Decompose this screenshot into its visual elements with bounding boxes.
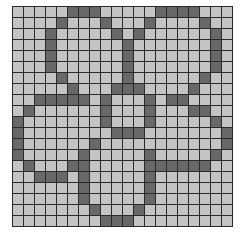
grid-cell-filled[interactable] [89,138,100,149]
grid-cell-empty[interactable] [23,127,34,138]
grid-cell-empty[interactable] [78,72,89,83]
grid-cell-empty[interactable] [78,17,89,28]
grid-cell-empty[interactable] [122,94,133,105]
grid-cell-empty[interactable] [45,72,56,83]
grid-cell-empty[interactable] [210,72,221,83]
grid-cell-filled[interactable] [199,160,210,171]
grid-cell-empty[interactable] [89,28,100,39]
grid-cell-empty[interactable] [67,182,78,193]
grid-cell-empty[interactable] [199,94,210,105]
grid-cell-empty[interactable] [56,105,67,116]
grid-cell-empty[interactable] [67,17,78,28]
grid-cell-empty[interactable] [122,116,133,127]
grid-cell-filled[interactable] [144,17,155,28]
grid-cell-empty[interactable] [12,72,23,83]
grid-cell-empty[interactable] [144,39,155,50]
grid-cell-empty[interactable] [144,215,155,226]
grid-cell-filled[interactable] [56,94,67,105]
grid-cell-filled[interactable] [144,149,155,160]
grid-cell-empty[interactable] [89,50,100,61]
grid-cell-empty[interactable] [133,6,144,17]
grid-cell-empty[interactable] [177,28,188,39]
grid-cell-empty[interactable] [188,28,199,39]
grid-cell-empty[interactable] [89,215,100,226]
grid-cell-empty[interactable] [166,50,177,61]
grid-cell-empty[interactable] [100,61,111,72]
grid-cell-empty[interactable] [122,182,133,193]
grid-cell-empty[interactable] [155,116,166,127]
grid-cell-empty[interactable] [45,182,56,193]
grid-cell-empty[interactable] [34,193,45,204]
grid-cell-empty[interactable] [199,204,210,215]
grid-cell-empty[interactable] [111,149,122,160]
grid-cell-filled[interactable] [100,94,111,105]
grid-cell-empty[interactable] [144,72,155,83]
grid-cell-empty[interactable] [23,39,34,50]
grid-cell-empty[interactable] [89,116,100,127]
grid-cell-empty[interactable] [67,50,78,61]
grid-cell-empty[interactable] [210,193,221,204]
grid-cell-empty[interactable] [122,193,133,204]
grid-cell-empty[interactable] [155,149,166,160]
grid-cell-empty[interactable] [199,61,210,72]
grid-cell-filled[interactable] [122,127,133,138]
grid-cell-filled[interactable] [34,94,45,105]
grid-cell-empty[interactable] [89,171,100,182]
grid-cell-empty[interactable] [23,83,34,94]
grid-cell-empty[interactable] [188,116,199,127]
grid-cell-empty[interactable] [221,83,232,94]
grid-cell-empty[interactable] [89,182,100,193]
grid-cell-filled[interactable] [78,149,89,160]
grid-cell-empty[interactable] [67,72,78,83]
grid-cell-empty[interactable] [12,17,23,28]
grid-cell-empty[interactable] [56,50,67,61]
grid-cell-empty[interactable] [89,193,100,204]
grid-cell-empty[interactable] [12,94,23,105]
grid-cell-empty[interactable] [188,171,199,182]
grid-cell-empty[interactable] [166,182,177,193]
grid-cell-empty[interactable] [199,83,210,94]
grid-cell-empty[interactable] [144,28,155,39]
grid-cell-filled[interactable] [133,83,144,94]
grid-cell-empty[interactable] [210,215,221,226]
grid-cell-empty[interactable] [34,28,45,39]
grid-cell-empty[interactable] [177,105,188,116]
grid-cell-empty[interactable] [12,204,23,215]
grid-cell-empty[interactable] [155,17,166,28]
grid-cell-empty[interactable] [155,204,166,215]
grid-cell-filled[interactable] [144,171,155,182]
grid-cell-empty[interactable] [166,28,177,39]
grid-cell-empty[interactable] [67,116,78,127]
grid-cell-filled[interactable] [12,116,23,127]
grid-cell-empty[interactable] [100,127,111,138]
grid-cell-empty[interactable] [188,215,199,226]
grid-cell-filled[interactable] [144,94,155,105]
grid-cell-filled[interactable] [166,160,177,171]
grid-cell-empty[interactable] [155,50,166,61]
grid-cell-empty[interactable] [166,105,177,116]
grid-cell-empty[interactable] [45,83,56,94]
grid-cell-empty[interactable] [111,50,122,61]
grid-cell-empty[interactable] [34,39,45,50]
grid-cell-filled[interactable] [78,94,89,105]
grid-cell-empty[interactable] [56,160,67,171]
grid-cell-filled[interactable] [67,83,78,94]
grid-cell-filled[interactable] [12,138,23,149]
grid-cell-empty[interactable] [144,138,155,149]
grid-cell-empty[interactable] [100,6,111,17]
grid-cell-empty[interactable] [34,61,45,72]
grid-cell-empty[interactable] [133,149,144,160]
grid-cell-empty[interactable] [23,171,34,182]
grid-cell-empty[interactable] [78,28,89,39]
grid-cell-empty[interactable] [122,149,133,160]
grid-cell-empty[interactable] [133,50,144,61]
grid-cell-empty[interactable] [177,116,188,127]
grid-cell-empty[interactable] [67,105,78,116]
grid-cell-empty[interactable] [199,28,210,39]
grid-cell-empty[interactable] [177,204,188,215]
grid-cell-empty[interactable] [199,171,210,182]
grid-cell-empty[interactable] [56,127,67,138]
grid-cell-filled[interactable] [45,39,56,50]
grid-cell-filled[interactable] [78,193,89,204]
grid-cell-empty[interactable] [166,116,177,127]
